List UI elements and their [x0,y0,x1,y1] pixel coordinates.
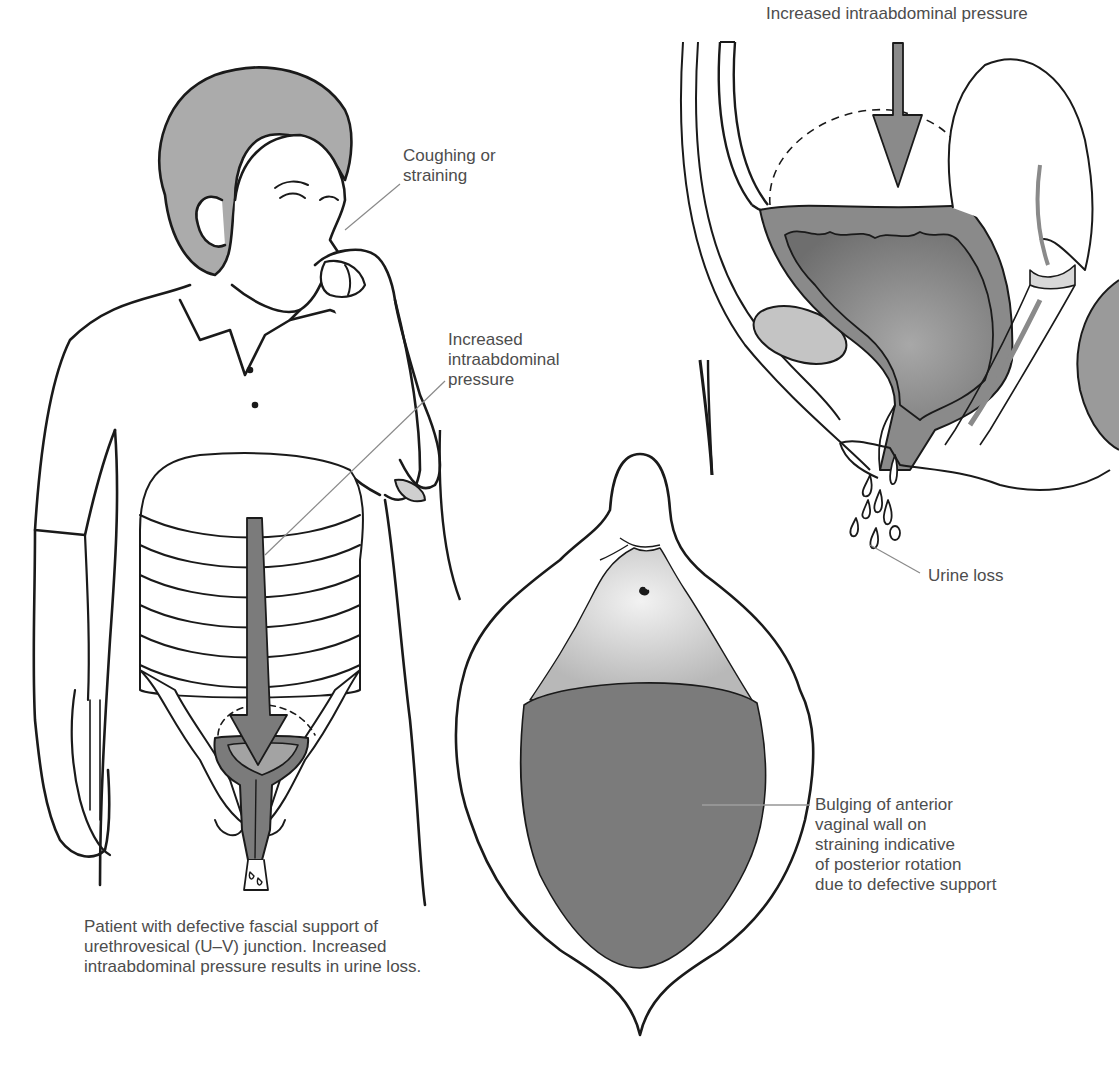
label-line: due to defective support [815,875,996,895]
sagittal-section [681,42,1119,548]
label-line: straining [403,166,496,186]
label-line: Bulging of anterior [815,795,996,815]
label-line: Increased [448,330,560,350]
patient-figure [34,68,440,905]
caption-line: urethrovesical (U–V) junction. Increased [84,937,421,957]
caption-line: Patient with defective fascial support o… [84,917,421,937]
label-increased-pressure-patient: Increased intraabdominal pressure [448,330,560,390]
label-bulging-anterior-wall: Bulging of anterior vaginal wall on stra… [815,795,996,895]
label-line: vaginal wall on [815,815,996,835]
rectum [1077,280,1119,450]
label-urine-loss: Urine loss [928,566,1004,586]
vaginal-view [456,454,813,1035]
caption-line: intraabdominal pressure results in urine… [84,957,421,977]
label-line: pressure [448,370,560,390]
urine-drops [850,455,900,548]
patient-caption: Patient with defective fascial support o… [84,917,421,977]
label-line: straining indicative [815,835,996,855]
urine-loss-leader [870,545,920,573]
label-increased-pressure-top: Increased intraabdominal pressure [766,4,1028,24]
label-coughing-or-straining: Coughing or straining [403,146,496,186]
pressure-arrow-section [873,43,922,187]
label-line: intraabdominal [448,350,560,370]
label-line: Coughing or [403,146,496,166]
label-line: of posterior rotation [815,855,996,875]
